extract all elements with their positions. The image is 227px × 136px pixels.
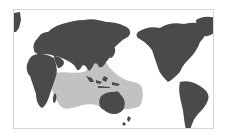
map-frame: Indo-Pacific distribution range	[13, 9, 214, 129]
landmass-madagascar	[53, 93, 56, 103]
world-map	[14, 10, 214, 129]
landmass-greenland-west	[14, 12, 21, 32]
landmass-new-zealand	[122, 116, 131, 126]
landmass-south-america	[179, 81, 208, 129]
landmass-north-america	[137, 23, 207, 82]
landmass-africa	[27, 54, 57, 108]
